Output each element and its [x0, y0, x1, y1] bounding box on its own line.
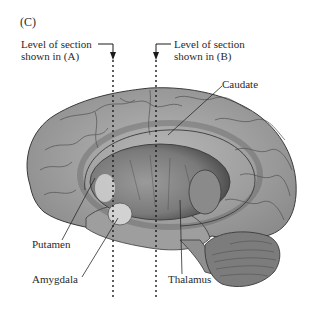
- arrow-down-icon: [110, 52, 116, 60]
- thalamus-label: Thalamus: [168, 273, 211, 285]
- section-b-line1: Level of section: [174, 38, 245, 50]
- section-a-line2: shown in (A): [21, 50, 92, 62]
- amygdala-structure: [108, 203, 132, 225]
- section-a-label: Level of section shown in (A): [21, 38, 92, 62]
- thalamus-structure: [189, 170, 221, 214]
- cerebellum: [205, 232, 280, 287]
- section-b-label: Level of section shown in (B): [174, 38, 245, 62]
- section-b-line2: shown in (B): [174, 50, 245, 62]
- section-a-line1: Level of section: [21, 38, 92, 50]
- amygdala-label: Amygdala: [32, 273, 78, 285]
- caudate-label: Caudate: [222, 78, 258, 90]
- arrow-down-icon: [153, 52, 159, 60]
- panel-label: (C): [20, 16, 36, 28]
- putamen-label: Putamen: [32, 238, 71, 250]
